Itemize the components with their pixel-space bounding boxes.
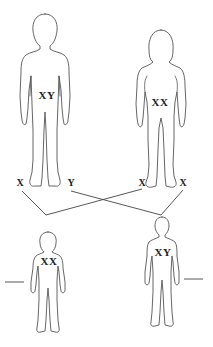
mother-gamete-x2-label: X (179, 178, 186, 188)
mother-figure (136, 30, 186, 187)
cross-line-x-to-daughter (22, 189, 142, 215)
mother-genotype-label: XX (152, 97, 169, 108)
son-genotype-label: XY (155, 247, 172, 258)
daughter-figure (31, 232, 65, 332)
mother-gamete-x1-label: X (138, 178, 145, 188)
daughter-genotype-label: XX (41, 256, 58, 267)
father-genotype-label: XY (39, 90, 56, 101)
father-gamete-y-label: Y (67, 178, 74, 188)
diagram-canvas (0, 0, 213, 347)
son-figure (145, 217, 179, 326)
father-gamete-x-label: X (16, 178, 23, 188)
cross-line-y-to-son (71, 190, 183, 215)
